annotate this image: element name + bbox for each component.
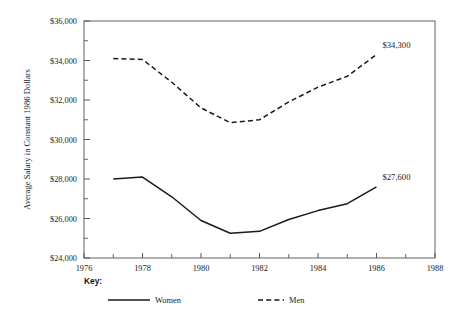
y-axis-tick-label: $34,000 — [50, 57, 77, 66]
x-axis-tick-label: 1982 — [251, 264, 268, 273]
x-axis-tick-label: 1978 — [134, 264, 151, 273]
legend-label-men: Men — [289, 296, 305, 305]
y-axis-title: Average Salary in Constant 1986 Dollars — [22, 68, 32, 210]
series-group — [113, 55, 376, 234]
legend-label-women: Women — [155, 296, 182, 305]
x-axis-tick-label: 1986 — [368, 264, 385, 273]
legend: Key:WomenMen — [84, 276, 305, 305]
series-line-men — [113, 55, 376, 123]
x-axis-tick-label: 1980 — [193, 264, 210, 273]
plot-border — [84, 21, 435, 258]
x-axis-tick-label: 1976 — [76, 264, 93, 273]
x-axis-tick-label: 1984 — [310, 264, 327, 273]
y-axis-tick-label: $30,000 — [50, 136, 77, 145]
annotations: $34,300$27,600 — [383, 40, 411, 182]
data-annotation: $34,300 — [383, 40, 411, 50]
plot-frame — [84, 21, 435, 258]
x-axis: 1976197819801982198419861988 — [76, 253, 444, 273]
series-line-women — [113, 177, 376, 233]
x-axis-tick-label: 1988 — [427, 264, 444, 273]
y-axis-tick-label: $36,000 — [50, 17, 77, 26]
line-chart: $24,000$26,000$28,000$30,000$32,000$34,0… — [0, 0, 453, 317]
y-axis-tick-label: $24,000 — [50, 254, 77, 263]
y-axis-tick-label: $32,000 — [50, 96, 77, 105]
y-axis-tick-label: $28,000 — [50, 175, 77, 184]
y-axis-tick-label: $26,000 — [50, 215, 77, 224]
data-annotation: $27,600 — [383, 172, 411, 182]
legend-title: Key: — [84, 276, 102, 286]
chart-container: $24,000$26,000$28,000$30,000$32,000$34,0… — [0, 0, 453, 317]
